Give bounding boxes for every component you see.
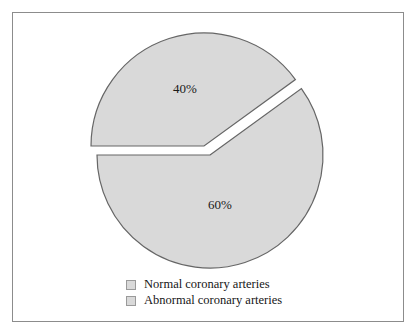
figure-root: 40% 60% Normal coronary arteries Abnorma… bbox=[0, 0, 417, 333]
legend-swatch-normal-icon bbox=[126, 280, 136, 290]
legend-label-normal: Normal coronary arteries bbox=[144, 277, 270, 292]
legend-label-abnormal: Abnormal coronary arteries bbox=[144, 293, 282, 308]
slice-label-60: 60% bbox=[208, 197, 232, 212]
legend-swatch-abnormal-icon bbox=[126, 296, 136, 306]
legend-item-normal[interactable]: Normal coronary arteries bbox=[126, 277, 326, 292]
slice-label-40: 40% bbox=[173, 81, 197, 96]
legend: Normal coronary arteries Abnormal corona… bbox=[126, 277, 326, 309]
legend-item-abnormal[interactable]: Abnormal coronary arteries bbox=[126, 293, 326, 308]
